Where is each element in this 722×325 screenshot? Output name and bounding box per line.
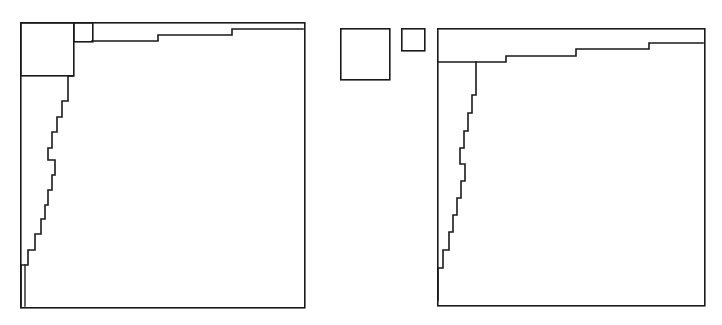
right-large-square [341,29,390,80]
right-panel-canvas [0,0,722,325]
figure-root [0,0,722,325]
right-small-square [402,29,425,51]
right-outer-box [438,29,705,306]
right-panel [0,0,722,325]
right-top-staircase [438,43,703,62]
right-vertical-staircase [438,62,476,300]
